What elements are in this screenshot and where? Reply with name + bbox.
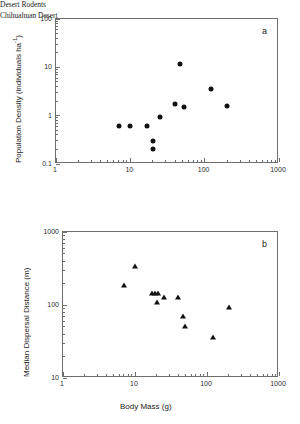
panel-b-x-tick <box>207 372 208 376</box>
panel-a-x-minor-tick <box>197 160 198 162</box>
panel-a-y-minor-tick <box>56 130 58 131</box>
panel-b-data-point <box>175 294 181 299</box>
panel-a-data-point <box>173 101 178 106</box>
panel-b-x-tick-label: 1 <box>60 380 64 387</box>
panel-a-data-point <box>150 138 155 143</box>
panel-b-y-tick-label: 100 <box>0 301 59 308</box>
panel-a-y-axis-title-exponent: -1 <box>12 38 18 43</box>
panel-a-y-minor-tick <box>56 38 58 39</box>
panel-a-x-minor-tick <box>123 160 124 162</box>
panel-a-y-minor-tick <box>56 101 58 102</box>
panel-a-y-minor-tick <box>56 72 58 73</box>
panel-a-x-minor-tick <box>275 160 276 162</box>
panel-a-data-point <box>128 124 133 129</box>
panel-b-data-point <box>180 314 186 319</box>
panel-a-x-minor-tick <box>91 160 92 162</box>
panel-a-y-minor-tick <box>56 86 58 87</box>
panel-b-x-minor-tick <box>191 374 192 376</box>
panel-a-y-minor-tick <box>56 78 58 79</box>
panel-a-x-minor-tick <box>193 160 194 162</box>
panel-a-y-minor-tick <box>56 126 58 127</box>
panel-b-letter: b <box>262 239 267 249</box>
panel-a-y-minor-tick <box>56 120 58 121</box>
panel-a-y-minor-tick <box>56 92 58 93</box>
panel-b-data-point <box>154 299 160 304</box>
panel-b-x-minor-tick <box>169 374 170 376</box>
panel-a-y-minor-tick <box>56 134 58 135</box>
panel-b-x-minor-tick <box>272 374 273 376</box>
panel-b-data-point <box>132 263 138 268</box>
panel-a-y-tick <box>56 164 60 165</box>
panel-b-plot-area <box>63 232 277 376</box>
panel-a-x-tick-label: 100 <box>198 166 210 173</box>
panel-a-x-tick <box>130 158 131 162</box>
panel-a-y-minor-tick <box>56 140 58 141</box>
panel-b-y-minor-tick <box>63 261 65 262</box>
panel-b-x-minor-tick <box>228 374 229 376</box>
panel-b-y-tick <box>63 305 67 306</box>
panel-a-y-minor-tick <box>56 52 58 53</box>
panel-a-y-tick-label: 0.1 <box>0 160 52 167</box>
panel-b-y-minor-tick <box>63 253 65 254</box>
panel-a-data-point <box>145 124 150 129</box>
panel-b-x-minor-tick <box>113 374 114 376</box>
panel-a-x-minor-tick <box>175 160 176 162</box>
panel-b-y-minor-tick <box>63 243 65 244</box>
panel-a-y-minor-tick <box>56 33 58 34</box>
panel-a-y-tick-label: 1 <box>0 111 52 118</box>
panel-a-x-minor-tick <box>227 160 228 162</box>
panel-a-y-axis-title: Population Density (individuals ha-1) <box>12 35 23 163</box>
panel-a-annotation-line-1: Desert Rodents <box>0 0 58 11</box>
panel-a-x-minor-tick <box>267 160 268 162</box>
panel-b-x-minor-tick <box>178 374 179 376</box>
panel-a-data-point <box>157 114 162 119</box>
panel-b-y-minor-tick <box>63 312 65 313</box>
panel-b-x-minor-tick <box>257 374 258 376</box>
panel-a-data-point <box>116 124 121 129</box>
panel-a-x-minor-tick <box>113 160 114 162</box>
panel-a-x-minor-tick <box>271 160 272 162</box>
panel-a-y-tick-label: 100 <box>0 15 52 22</box>
panel-a-data-point <box>177 61 182 66</box>
panel-b-y-minor-tick <box>63 239 65 240</box>
panel-b-data-point <box>161 295 167 300</box>
panel-a-x-minor-tick <box>240 160 241 162</box>
panel-b-x-minor-tick <box>185 374 186 376</box>
panel-a-x-tick <box>56 158 57 162</box>
panel-b-y-minor-tick <box>63 308 65 309</box>
panel-a-y-minor-tick <box>56 117 58 118</box>
panel-a-y-minor-tick <box>56 74 58 75</box>
panel-a-x-tick <box>204 158 205 162</box>
panel-b-y-minor-tick <box>63 334 65 335</box>
panel-b-x-minor-tick <box>84 374 85 376</box>
panel-b-data-point <box>121 282 127 287</box>
panel-b-data-point <box>210 335 216 340</box>
panel-b-x-minor-tick <box>106 374 107 376</box>
panel-b-y-axis-title: Median Dispersal Distance (m) <box>22 268 31 377</box>
panel-b-y-minor-tick <box>63 270 65 271</box>
panel-a-data-point <box>208 86 213 91</box>
panel-a-x-minor-tick <box>107 160 108 162</box>
panel-a-x-minor-tick <box>262 160 263 162</box>
panel-b-x-tick-label: 100 <box>200 380 212 387</box>
panel-a-data-point <box>150 147 155 152</box>
panel-b-x-minor-tick <box>250 374 251 376</box>
panel-a-letter: a <box>262 26 267 36</box>
panel-a-y-axis-title-text: Population Density (individuals ha <box>14 43 23 163</box>
panel-b-x-minor-tick <box>195 374 196 376</box>
panel-a-y-tick-label: 10 <box>0 63 52 70</box>
panel-a-y-minor-tick <box>56 44 58 45</box>
panel-b-x-tick-label: 10 <box>130 380 138 387</box>
panel-a-plot-frame <box>55 18 278 163</box>
panel-a-y-minor-tick <box>56 123 58 124</box>
panel-b-y-minor-tick <box>63 326 65 327</box>
panel-b-x-minor-tick <box>128 374 129 376</box>
panel-b-x-tick <box>279 372 280 376</box>
panel-a-x-minor-tick <box>152 160 153 162</box>
panel-b-plot-frame <box>62 231 278 377</box>
panel-a: Population Density (individuals ha-1) De… <box>0 0 300 212</box>
panel-a-y-minor-tick <box>56 26 58 27</box>
panel-b-y-minor-tick <box>63 283 65 284</box>
panel-b-data-point <box>226 304 232 309</box>
panel-a-x-minor-tick <box>100 160 101 162</box>
